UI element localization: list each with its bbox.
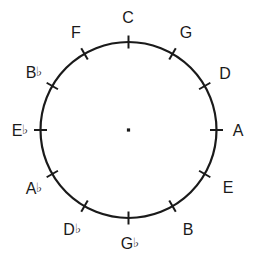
note-letter: E [12,122,23,139]
note-d-flat-label: D♭ [63,222,81,238]
center-dot-marker [127,128,130,131]
note-letter: B [183,221,194,238]
note-b-label: B [183,222,194,238]
note-letter: C [122,9,134,26]
note-g-flat-label: G♭ [121,236,139,252]
flat-sign-icon: ♭ [36,64,42,79]
note-letter: A [233,122,244,139]
tick-mark-d-flat [81,201,88,212]
note-c-label: C [122,10,134,26]
circle-of-fifths-diagram: CGDAEBG♭D♭A♭E♭B♭F [0,0,260,262]
note-letter: D [63,221,75,238]
flat-sign-icon: ♭ [75,221,81,236]
note-e-flat-label: E♭ [12,123,29,139]
note-g-label: G [180,25,192,41]
note-letter: E [223,179,234,196]
center-dot [127,128,130,131]
note-letter: B [26,64,37,81]
note-letter: G [180,24,192,41]
tick-mark-a-flat [47,171,58,178]
tick-mark-d [199,83,210,90]
note-a-flat-label: A♭ [26,181,43,197]
tick-mark-f [81,48,88,59]
flat-sign-icon: ♭ [133,235,139,250]
note-f-label: F [71,25,81,41]
note-d-label: D [219,66,231,82]
note-e-label: E [223,180,234,196]
note-letter: G [121,235,133,252]
note-letter: A [26,180,37,197]
note-a-label: A [233,123,244,139]
flat-sign-icon: ♭ [22,122,28,137]
note-letter: D [219,65,231,82]
tick-mark-e [199,171,210,178]
note-b-flat-label: B♭ [26,65,43,81]
note-letter: F [71,24,81,41]
tick-mark-b [169,201,176,212]
tick-mark-b-flat [47,83,58,90]
flat-sign-icon: ♭ [36,180,42,195]
tick-mark-g [169,48,176,59]
diagram-canvas [0,0,260,262]
